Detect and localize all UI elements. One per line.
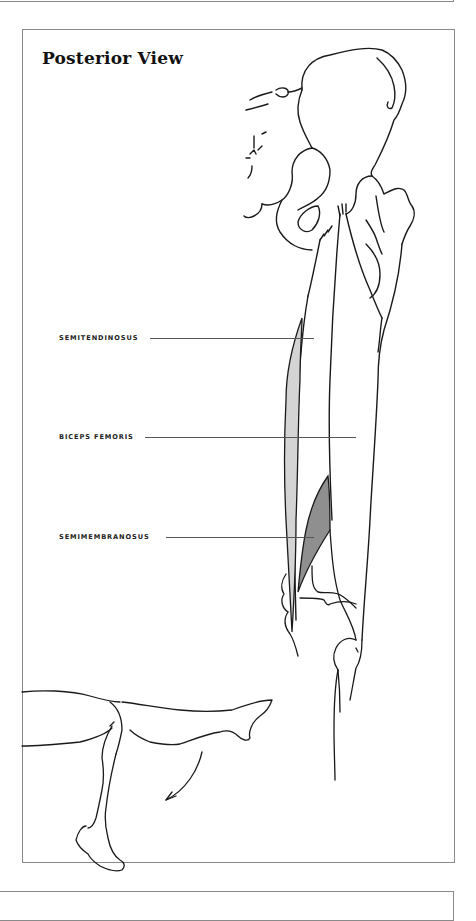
leader-line-biceps-femoris: [145, 437, 356, 438]
semimembranosus-muscle: [298, 476, 330, 592]
curved-arrow-icon: [166, 752, 202, 800]
label-semimembranosus: SEMIMEMBRANOSUS: [59, 533, 150, 541]
leader-line-semimembranosus: [166, 537, 314, 538]
knee-flexion-inset: [22, 691, 272, 871]
thigh-drawing: [295, 214, 403, 640]
pelvis-drawing: [244, 48, 414, 254]
leader-line-semitendinosus: [150, 338, 314, 339]
label-biceps-femoris: BICEPS FEMORIS: [59, 433, 134, 441]
label-semitendinosus: SEMITENDINOSUS: [59, 334, 138, 342]
